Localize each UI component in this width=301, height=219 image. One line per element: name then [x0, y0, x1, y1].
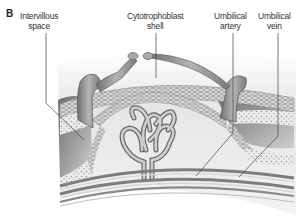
placenta-illustration: [0, 0, 301, 219]
